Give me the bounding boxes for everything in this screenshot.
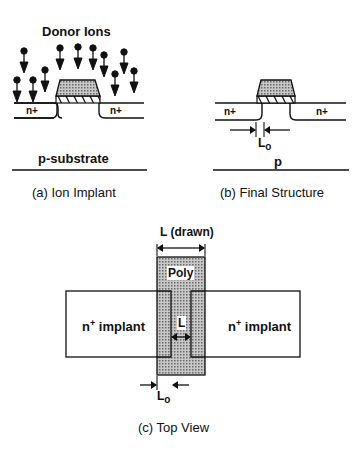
panel-b-lo-label: Lo — [258, 136, 271, 152]
p-substrate-label: p-substrate — [38, 151, 109, 166]
panel-b-right-n-plus: n+ — [316, 106, 328, 117]
channel-l-label: L — [177, 316, 186, 330]
mosfet-overlap-diagram: Donor Ions n+ n+ p-substrate (a) Ion Imp… — [0, 0, 364, 457]
panel-b-left-n-plus: n+ — [224, 106, 236, 117]
caption-a: (a) Ion Implant — [32, 185, 116, 200]
caption-b: (b) Final Structure — [220, 185, 324, 200]
l-drawn-label: L (drawn) — [160, 225, 214, 239]
right-implant-label: n+ implant — [228, 318, 291, 334]
donor-ions-label: Donor Ions — [42, 24, 111, 39]
panel-a-left-n-plus: n+ — [26, 105, 38, 116]
panel-c-lo-label: Lo — [157, 389, 170, 405]
left-implant-label: n+ implant — [82, 318, 145, 334]
panel-a-right-n-plus: n+ — [110, 105, 122, 116]
poly-label: Poly — [167, 266, 194, 280]
caption-c: (c) Top View — [138, 420, 209, 435]
p-label: p — [274, 154, 282, 169]
